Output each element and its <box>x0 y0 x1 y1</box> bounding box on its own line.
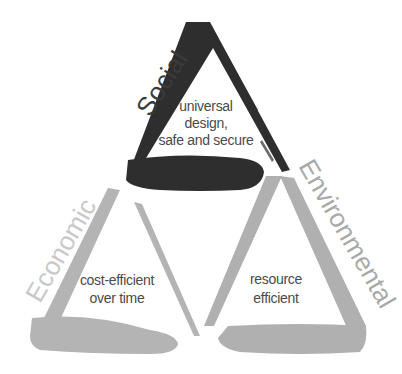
social-text-line-2: design, <box>184 115 227 131</box>
social-text-line-3: safe and secure <box>158 132 254 148</box>
economic-text-line-1: cost-efficient <box>80 272 155 288</box>
social-triangle: Social universal design, safe and secure <box>126 22 290 191</box>
social-triangle-base <box>126 155 264 191</box>
economic-triangle-right-edge <box>134 202 200 336</box>
environmental-text-line-2: efficient <box>253 290 299 306</box>
sustainability-diagram: Social universal design, safe and secure… <box>0 0 402 374</box>
environmental-triangle-base <box>218 324 366 354</box>
environmental-text-line-1: resource <box>250 271 303 287</box>
economic-text-line-2: over time <box>90 290 145 306</box>
economic-triangle-base <box>30 317 178 355</box>
social-text-line-1: universal <box>179 98 233 114</box>
economic-triangle: Economic cost-efficient over time <box>19 188 200 354</box>
